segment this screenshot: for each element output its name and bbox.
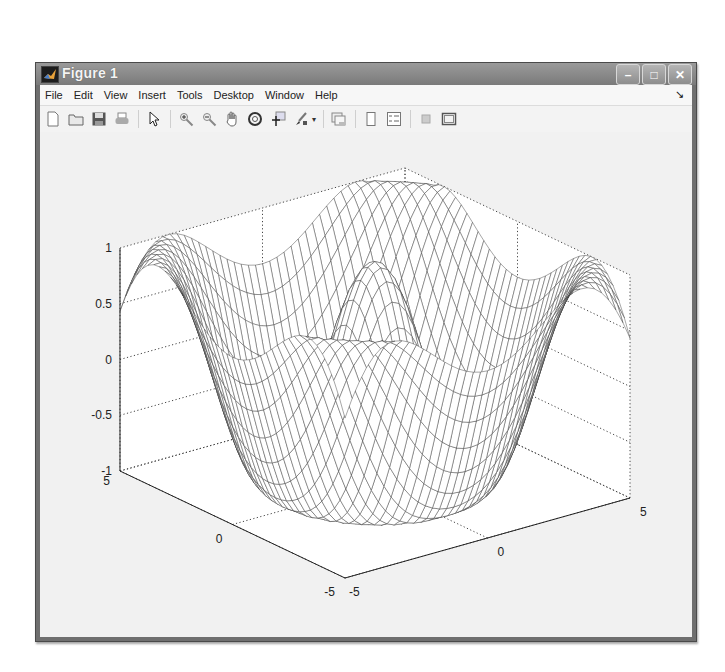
figure-window: Figure 1 – □ ✕ File Edit View Insert Too… xyxy=(35,62,697,642)
z-tick-label: 0 xyxy=(105,353,112,367)
y-tick-label: 5 xyxy=(103,474,110,488)
x-tick-label: 5 xyxy=(640,505,647,519)
surface-plot[interactable]: -1-0.500.5150-5-505 xyxy=(40,132,692,633)
link-plot-button[interactable] xyxy=(329,109,349,129)
show-plot-tools-button[interactable] xyxy=(439,109,459,129)
minimize-button[interactable]: – xyxy=(616,64,640,85)
brush-dropdown-icon[interactable]: ▾ xyxy=(312,115,316,124)
legend-icon xyxy=(386,111,402,127)
colorbar-icon xyxy=(363,111,379,127)
pan-hand-icon xyxy=(224,111,240,127)
toolbar-separator xyxy=(410,110,411,128)
menu-edit[interactable]: Edit xyxy=(69,89,99,101)
maximize-icon: □ xyxy=(643,65,665,84)
open-file-button[interactable] xyxy=(66,109,86,129)
menu-window[interactable]: Window xyxy=(260,89,310,101)
rotate-3d-button[interactable] xyxy=(245,109,265,129)
hide-plot-tools-button[interactable] xyxy=(416,109,436,129)
menu-help[interactable]: Help xyxy=(310,89,344,101)
rotate-3d-icon xyxy=(247,111,263,127)
z-tick-label: 1 xyxy=(105,241,112,255)
close-button[interactable]: ✕ xyxy=(668,64,692,85)
show-plot-tools-icon xyxy=(441,111,457,127)
figure-client: File Edit View Insert Tools Desktop Wind… xyxy=(40,85,692,637)
y-tick-label: 0 xyxy=(216,532,223,546)
new-figure-icon xyxy=(45,111,61,127)
new-figure-button[interactable] xyxy=(43,109,63,129)
hide-plot-tools-icon xyxy=(418,111,434,127)
matlab-logo-icon xyxy=(41,66,59,83)
toolbar-separator xyxy=(138,110,139,128)
zoom-in-icon xyxy=(178,111,194,127)
data-cursor-icon xyxy=(270,111,286,127)
plot-area: -1-0.500.5150-5-505 xyxy=(40,132,692,637)
zoom-out-icon xyxy=(201,111,217,127)
z-tick-label: -0.5 xyxy=(91,408,112,422)
maximize-button[interactable]: □ xyxy=(642,64,666,85)
menu-desktop[interactable]: Desktop xyxy=(209,89,260,101)
window-title: Figure 1 xyxy=(62,65,118,81)
dock-figure-icon[interactable]: ↘ xyxy=(675,88,684,101)
menu-view[interactable]: View xyxy=(99,89,134,101)
save-button[interactable] xyxy=(89,109,109,129)
print-icon xyxy=(114,111,130,127)
insert-legend-button[interactable] xyxy=(384,109,404,129)
brush-button[interactable] xyxy=(291,109,311,129)
open-file-icon xyxy=(68,111,84,127)
toolbar-separator xyxy=(323,110,324,128)
z-tick-label: 0.5 xyxy=(95,297,112,311)
toolbar-separator xyxy=(170,110,171,128)
toolbar-separator xyxy=(355,110,356,128)
title-bar[interactable]: Figure 1 – □ ✕ xyxy=(36,63,696,85)
menu-bar: File Edit View Insert Tools Desktop Wind… xyxy=(40,85,692,105)
save-icon xyxy=(91,111,107,127)
x-tick-label: -5 xyxy=(349,585,360,599)
menu-insert[interactable]: Insert xyxy=(133,89,172,101)
close-icon: ✕ xyxy=(669,65,691,84)
link-plot-icon xyxy=(331,111,347,127)
y-tick-label: -5 xyxy=(324,585,335,599)
zoom-in-button[interactable] xyxy=(176,109,196,129)
insert-colorbar-button[interactable] xyxy=(361,109,381,129)
brush-icon xyxy=(293,111,309,127)
print-button[interactable] xyxy=(112,109,132,129)
menu-file[interactable]: File xyxy=(40,89,69,101)
pointer-icon xyxy=(146,111,162,127)
zoom-out-button[interactable] xyxy=(199,109,219,129)
edit-plot-button[interactable] xyxy=(144,109,164,129)
data-cursor-button[interactable] xyxy=(268,109,288,129)
menu-tools[interactable]: Tools xyxy=(172,89,209,101)
pan-button[interactable] xyxy=(222,109,242,129)
figure-toolbar: ▾ xyxy=(40,105,692,133)
minimize-icon: – xyxy=(617,65,639,84)
x-tick-label: 0 xyxy=(498,545,505,559)
